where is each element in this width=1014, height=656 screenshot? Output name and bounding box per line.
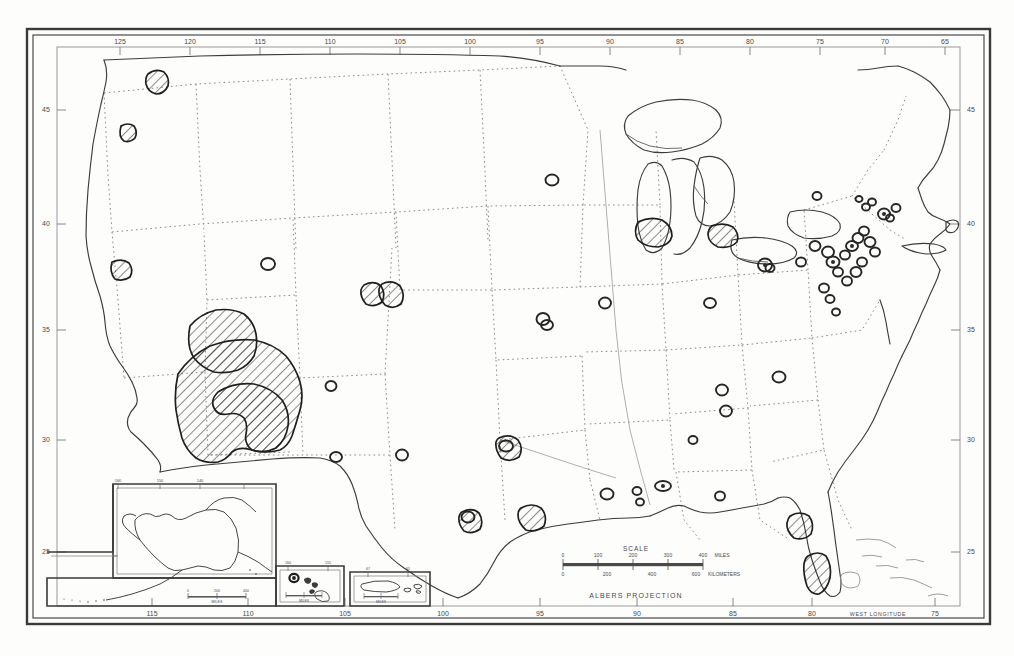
lon-tick-label: 105: [339, 610, 351, 617]
lon-tick-label: 100: [464, 38, 476, 45]
lon-tick-label: 85: [676, 38, 684, 45]
lon-tick-label: 105: [394, 38, 406, 45]
lat-tick-label: 35: [42, 326, 50, 333]
lat-tick-label: 45: [42, 106, 50, 113]
pr-tick-label: 65: [406, 567, 410, 571]
lon-tick-label: 90: [606, 38, 614, 45]
alaska-scale-tick: 400: [243, 589, 249, 593]
lon-tick-label: 115: [254, 38, 265, 45]
alaska-scale-tick: 200: [214, 589, 220, 593]
lat-tick-label: 40: [967, 220, 975, 227]
hawaii-tick-label: 160: [285, 561, 291, 565]
lon-tick-label: 125: [114, 38, 126, 45]
scale-miles-tick: 100: [594, 552, 603, 558]
lon-tick-label: 95: [536, 610, 544, 617]
lat-tick-label: 30: [42, 436, 50, 443]
lat-tick-label: 25: [967, 548, 975, 555]
alaska-tick-label: 140: [197, 478, 204, 483]
lon-tick-label: 75: [931, 610, 939, 617]
lon-tick-label: 115: [146, 610, 157, 617]
lon-tick-label: 100: [437, 610, 449, 617]
scale-km-tick: 200: [603, 571, 612, 577]
lon-tick-label: 65: [941, 38, 949, 45]
lon-tick-label: 95: [536, 38, 544, 45]
scale-km-tick: 0: [562, 571, 565, 577]
scale-miles-tick: 400: [699, 552, 708, 558]
alaska-tick-label: 160: [115, 478, 122, 483]
lat-tick-label: 30: [967, 436, 975, 443]
lat-tick-label: 45: [967, 106, 975, 113]
scale-km-tick: 600: [692, 571, 701, 577]
hawaii-scale-unit: MILES: [299, 599, 310, 603]
lon-tick-label: 70: [881, 38, 889, 45]
west-longitude-label: WEST LONGITUDE: [850, 611, 906, 617]
lon-tick-label: 80: [746, 38, 754, 45]
lon-tick-label: 120: [184, 38, 196, 45]
hawaii-tick-label: 155: [325, 561, 331, 565]
map-sheet: 125 120 115 110 105 100 95 90 85 80 75 7…: [0, 0, 1014, 656]
lon-tick-label: 110: [242, 610, 253, 617]
scale-miles-unit: MILES: [714, 552, 730, 558]
map-page: 125 120 115 110 105 100 95 90 85 80 75 7…: [0, 0, 1014, 656]
lon-tick-label: 75: [816, 38, 824, 45]
lat-tick-label: 35: [967, 326, 975, 333]
lon-tick-label: 85: [729, 610, 737, 617]
pr-tick-label: 67: [366, 567, 370, 571]
scale-km-unit: KILOMETERS: [708, 571, 741, 577]
alaska-scale-unit: MILES: [212, 600, 223, 604]
projection-label: ALBERS PROJECTION: [589, 592, 682, 599]
lon-tick-label: 80: [808, 610, 816, 617]
alaska-scale-tick: 0: [187, 589, 189, 593]
scale-km-tick: 400: [648, 571, 657, 577]
scale-miles-tick: 200: [629, 552, 638, 558]
lon-tick-label: 110: [324, 38, 335, 45]
scale-title: SCALE: [623, 545, 649, 552]
scale-miles-tick: 0: [562, 552, 565, 558]
scale-miles-tick: 300: [664, 552, 673, 558]
pr-scale-unit: MILES: [376, 600, 387, 604]
alaska-tick-label: 150: [157, 478, 164, 483]
lat-tick-label: 40: [42, 220, 50, 227]
lon-tick-label: 90: [633, 610, 641, 617]
